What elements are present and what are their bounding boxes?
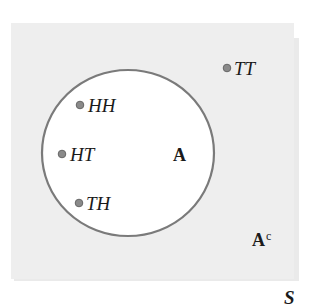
outcome-dot-ht [58,150,66,158]
event-a-label: A [173,146,186,164]
venn-diagram [0,0,322,306]
outcome-dot-hh [76,101,84,109]
event-a-circle [42,70,214,236]
complement-label: Ac [252,231,271,249]
outcome-label-hh: HH [88,96,115,115]
sample-space-label: S [284,288,295,306]
complement-superscript: c [266,229,271,243]
outcome-label-tt: TT [234,59,255,78]
outcome-label-ht: HT [70,145,94,164]
outcome-dot-tt [223,64,231,72]
outcome-dot-th [75,199,83,207]
outcome-label-th: TH [86,194,110,213]
complement-base: A [252,230,265,250]
